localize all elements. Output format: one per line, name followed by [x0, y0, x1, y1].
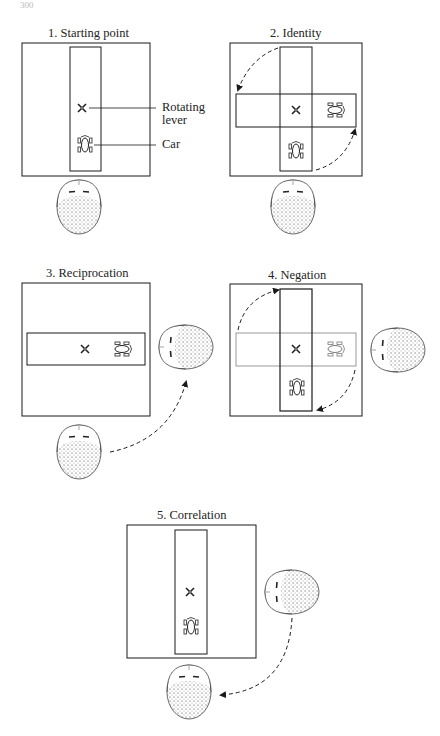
figure-canvas [0, 0, 440, 736]
car-icon [328, 103, 345, 117]
car-icon [184, 618, 198, 635]
observer-head-icon [167, 665, 211, 719]
rotation-arrow [316, 130, 355, 170]
observer-head-icon [159, 325, 213, 369]
observer-head-icon [371, 328, 425, 372]
panel-3-reciprocation [22, 283, 213, 479]
car-icon [289, 142, 303, 159]
observer-head-icon [265, 570, 319, 614]
observer-head-icon [57, 425, 101, 479]
car-icon [290, 379, 304, 396]
rotation-arrow [318, 370, 355, 410]
panel-5-correlation [127, 525, 319, 719]
panel-2-identity [230, 43, 362, 234]
car-icon [328, 342, 345, 356]
rotating-lever-icon [186, 588, 194, 596]
car-icon [115, 342, 132, 356]
car-icon [78, 136, 92, 153]
observer-head-icon [271, 180, 315, 234]
rotating-lever-icon [292, 106, 300, 114]
observer-head-icon [57, 180, 101, 234]
panel-1-starting-point [22, 43, 156, 234]
rotating-lever-icon [78, 104, 86, 112]
rotating-lever-icon [292, 345, 300, 353]
rotating-lever-icon [81, 345, 89, 353]
panel-4-negation [230, 284, 425, 416]
movement-arrow [110, 382, 186, 452]
rotation-arrow [238, 48, 278, 90]
rotation-arrow [238, 290, 278, 330]
